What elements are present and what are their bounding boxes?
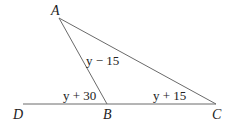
point-b-label: B [103,107,112,122]
point-d-label: D [12,107,23,122]
angle-b-exterior-label: y + 30 [63,88,96,103]
angle-c-label: y + 15 [153,88,186,103]
point-a-label: A [50,3,60,18]
angle-a-label: y − 15 [86,53,119,68]
triangle-diagram: A B C D y − 15 y + 30 y + 15 [0,0,234,124]
point-c-label: C [212,107,222,122]
